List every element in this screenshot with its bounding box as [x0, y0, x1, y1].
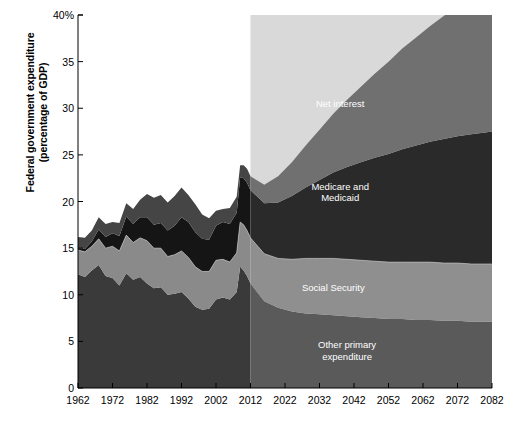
- x-axis-tick-labels: 1962197219821992200220122022203220422052…: [0, 0, 517, 426]
- chart-figure: Federal government expenditure (percenta…: [0, 0, 517, 426]
- x-tick-label: 2082: [472, 394, 512, 406]
